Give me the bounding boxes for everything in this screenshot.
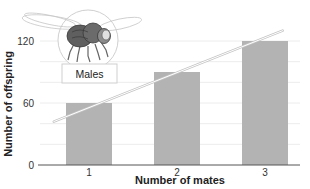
bar-2 — [154, 72, 200, 165]
y-tick-label: 60 — [23, 98, 35, 109]
bar-chart: 060120 123 Number of mates Number of off… — [0, 0, 310, 189]
y-tick-label: 120 — [17, 36, 34, 47]
bar-1 — [66, 103, 112, 165]
x-axis-title: Number of mates — [135, 174, 225, 186]
x-tick-label: 3 — [262, 167, 268, 178]
males-label: Males — [75, 68, 103, 80]
x-tick-label: 1 — [86, 167, 92, 178]
bar-3 — [242, 41, 288, 165]
y-tick-label: 0 — [28, 160, 34, 171]
y-axis-title: Number of offspring — [2, 51, 14, 157]
fly-illustration: Males — [21, 10, 142, 83]
y-axis-ticks: 060120 — [17, 36, 34, 171]
